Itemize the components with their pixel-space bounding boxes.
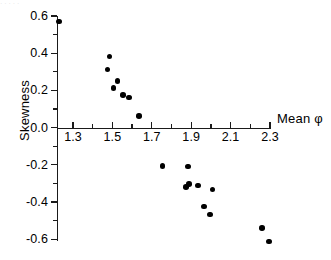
data-point [107, 54, 113, 60]
y-tick-label: 0.2 [30, 84, 48, 97]
y-tick-minor [53, 183, 57, 184]
plot-area: 0.60.40.20.0-0.2-0.4-0.6 1.31.51.71.92.1… [0, 0, 331, 260]
data-point [207, 212, 213, 218]
data-point [266, 239, 272, 245]
y-tick-major [51, 164, 57, 165]
y-tick-major [51, 15, 57, 16]
x-tick-label: 2.1 [222, 131, 240, 144]
data-point [111, 85, 117, 91]
y-tick-major [51, 201, 57, 202]
y-axis-title: Skewness [18, 66, 31, 156]
data-point [201, 204, 207, 210]
data-point [120, 92, 126, 98]
y-tick-label: -0.4 [26, 196, 48, 209]
y-tick-label: 0.6 [30, 10, 48, 23]
y-tick-label: -0.6 [26, 233, 48, 246]
y-tick-label: -0.2 [26, 159, 48, 172]
data-point [136, 113, 142, 119]
y-tick-major [51, 90, 57, 91]
x-tick-major [72, 122, 73, 128]
scatter-plot-figure: · · · · · 0.60.40.20.0-0.2-0.4-0.6 1.31.… [0, 0, 331, 260]
x-tick-label: 2.3 [261, 131, 279, 144]
data-point [259, 225, 265, 231]
y-tick-label: 0.0 [30, 122, 48, 135]
data-point [186, 181, 192, 187]
data-point [105, 67, 111, 73]
x-axis-title: Mean φ [277, 112, 323, 125]
data-point [56, 19, 62, 25]
y-tick-major [51, 239, 57, 240]
x-tick-label: 1.5 [104, 131, 122, 144]
y-tick-minor [53, 71, 57, 72]
data-point [126, 95, 132, 101]
x-tick-minor [171, 124, 172, 128]
data-point [160, 163, 166, 169]
x-tick-label: 1.7 [143, 131, 161, 144]
x-tick-major [151, 122, 152, 128]
y-tick-minor [53, 34, 57, 35]
x-tick-major [230, 122, 231, 128]
x-tick-major [112, 122, 113, 128]
y-tick-label: 0.4 [30, 47, 48, 60]
y-tick-minor [53, 108, 57, 109]
x-tick-minor [92, 124, 93, 128]
y-tick-major [51, 127, 57, 128]
data-point [210, 187, 216, 193]
x-tick-minor [210, 124, 211, 128]
y-tick-major [51, 53, 57, 54]
y-tick-minor [53, 220, 57, 221]
x-tick-label: 1.9 [182, 131, 200, 144]
x-tick-major [269, 122, 270, 128]
data-point [115, 78, 121, 84]
x-tick-label: 1.3 [64, 131, 82, 144]
x-tick-minor [250, 124, 251, 128]
data-point [185, 164, 191, 170]
x-tick-minor [131, 124, 132, 128]
x-tick-major [191, 122, 192, 128]
data-point [195, 183, 201, 189]
x-axis-line [57, 128, 271, 129]
y-tick-minor [53, 146, 57, 147]
